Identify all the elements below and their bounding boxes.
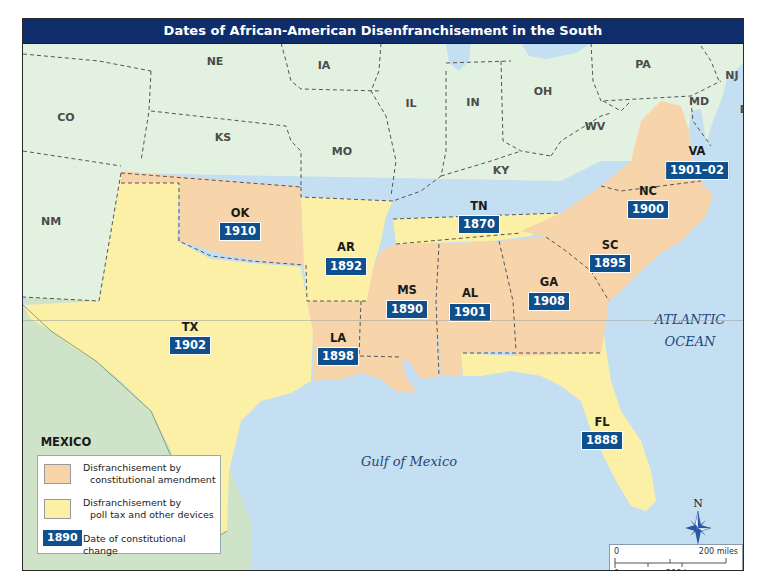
legend: Disfranchisement by constitutional amend…	[37, 455, 221, 554]
scale-zero-km: 0	[614, 569, 619, 571]
state-label-nj: NJ	[725, 69, 738, 82]
legend-date-badge: 1890	[43, 530, 82, 546]
state-label-ok: OK	[231, 206, 250, 220]
legend-amendment-line2: constitutional amendment	[90, 474, 216, 486]
legend-amendment-line1: Disfranchisement by	[83, 462, 181, 474]
date-badge-tn: 1870	[458, 215, 500, 234]
state-label-oh: OH	[534, 85, 553, 98]
date-badge-ga: 1908	[528, 292, 570, 311]
scale-zero-miles: 0	[614, 547, 619, 556]
state-label-nc: NC	[639, 184, 657, 198]
state-label-fl: FL	[594, 415, 609, 429]
state-label-ne: NE	[207, 55, 224, 68]
state-label-al: AL	[462, 286, 478, 300]
state-label-ar: AR	[337, 240, 355, 254]
legend-swatch-poll-tax	[44, 499, 71, 519]
date-badge-fl: 1888	[581, 431, 623, 450]
legend-swatch-amendment	[44, 464, 71, 484]
state-label-in: IN	[466, 96, 479, 109]
state-label-ks: KS	[215, 131, 231, 144]
state-label-md: MD	[689, 95, 709, 108]
compass-icon	[684, 510, 712, 546]
map-title: Dates of African-American Disenfranchise…	[23, 19, 743, 44]
state-label-mo: MO	[332, 145, 352, 158]
compass-rose: N	[684, 497, 712, 550]
legend-poll-tax-line1: Disfranchisement by	[83, 497, 181, 509]
legend-poll-tax-line2: poll tax and other devices	[90, 509, 214, 521]
state-label-sc: SC	[602, 238, 619, 252]
state-label-ia: IA	[318, 59, 331, 72]
state-label-nm: NM	[41, 215, 61, 228]
state-label-tn: TN	[470, 199, 487, 213]
date-badge-ms: 1890	[386, 300, 428, 319]
legend-date-text: Date of constitutional change	[83, 533, 220, 557]
atlantic-label-line2: OCEAN	[665, 332, 716, 351]
scale-miles-label: 200 miles	[699, 547, 738, 556]
date-badge-ok: 1910	[219, 222, 261, 241]
state-label-co: CO	[57, 111, 74, 124]
state-label-ky: KY	[493, 164, 510, 177]
date-badge-sc: 1895	[589, 254, 631, 273]
compass-north-label: N	[684, 497, 712, 510]
state-label-va: VA	[688, 144, 705, 158]
rule-line	[22, 320, 744, 321]
map-frame: Dates of African-American Disenfranchise…	[22, 18, 744, 571]
state-label-wv: WV	[585, 120, 606, 133]
date-badge-la: 1898	[317, 347, 359, 366]
state-label-pa: PA	[635, 58, 651, 71]
scale-ruler	[614, 556, 730, 570]
state-label-ga: GA	[540, 275, 558, 289]
state-label-ms: MS	[397, 283, 417, 297]
state-label-de: DE	[740, 103, 744, 116]
date-badge-va: 1901–02	[665, 161, 729, 180]
mexico-label: MEXICO	[41, 435, 92, 449]
scale-km-label: 200 km	[666, 569, 696, 571]
date-badge-ar: 1892	[325, 257, 367, 276]
date-badge-nc: 1900	[627, 200, 669, 219]
scale-bar: 0 200 miles 0 200 km	[609, 544, 743, 571]
state-label-il: IL	[405, 97, 416, 110]
gulf-label: Gulf of Mexico	[361, 452, 457, 471]
state-label-tx: TX	[182, 320, 199, 334]
state-label-la: LA	[330, 331, 346, 345]
date-badge-tx: 1902	[169, 336, 211, 355]
